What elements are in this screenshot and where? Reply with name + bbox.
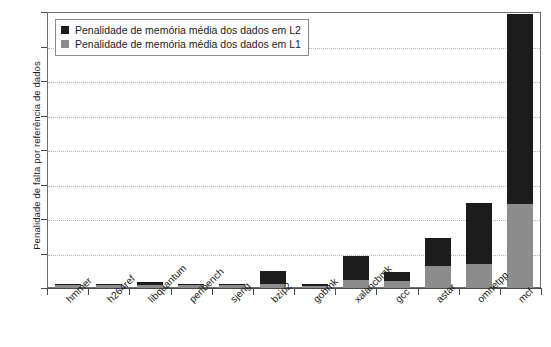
bar-astar [425,238,451,288]
x-tick-mark [171,288,172,295]
bar-segment-l2 [425,238,451,266]
bar-segment-l2 [507,14,533,205]
x-tick-mark [129,288,130,295]
bar-mcf [507,14,533,288]
x-tick-mark [418,288,419,295]
x-tick-mark [47,288,48,295]
legend-label-l2: Penalidade de memória média dos dados em… [75,24,301,36]
x-tick-mark [376,288,377,295]
x-tick-mark [541,288,542,295]
x-tick-mark [459,288,460,295]
x-tick-mark [500,288,501,295]
legend: Penalidade de memória média dos dados em… [55,19,309,56]
bar-chart: Penalidade de falta por referência de da… [0,0,551,347]
x-tick-mark [88,288,89,295]
bar-segment-l2 [466,203,492,263]
legend-swatch-l1 [61,40,69,48]
legend-item-l1: Penalidade de memória média dos dados em… [61,37,301,51]
x-tick-mark [294,288,295,295]
x-tick-mark [212,288,213,295]
bar-segment-l1 [507,204,533,288]
legend-swatch-l2 [61,26,69,34]
x-tick-mark [335,288,336,295]
legend-item-l2: Penalidade de memória média dos dados em… [61,23,301,37]
bar-omnetpp [466,203,492,288]
legend-label-l1: Penalidade de memória média dos dados em… [75,38,301,50]
bar-segment-l2 [343,256,369,280]
x-tick-mark [253,288,254,295]
y-axis-title: Penalidade de falta por referência de da… [31,16,42,296]
bar-segment-l1 [384,281,410,288]
